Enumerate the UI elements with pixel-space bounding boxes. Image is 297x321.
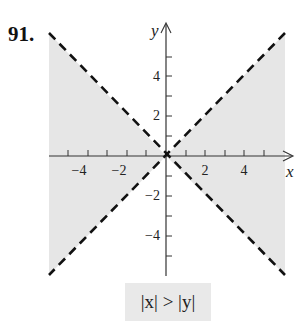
- x-tick-label: −2: [112, 163, 127, 178]
- y-tick-label: 4: [153, 69, 160, 84]
- inequality-graph: −4 −2 2 4 4 2 −2 −4 x y: [0, 0, 297, 321]
- y-tick-label: −2: [145, 188, 160, 203]
- x-tick-label: 4: [241, 163, 248, 178]
- y-axis-label: y: [149, 21, 159, 40]
- y-tick-label: −4: [145, 228, 160, 243]
- inequality-caption: |x| > |y|: [125, 283, 211, 321]
- caption-text: |x| > |y|: [141, 291, 195, 313]
- x-tick-label: −4: [72, 163, 87, 178]
- y-tick-label: 2: [153, 108, 160, 123]
- x-tick-label: 2: [202, 163, 209, 178]
- x-axis-label: x: [285, 162, 294, 181]
